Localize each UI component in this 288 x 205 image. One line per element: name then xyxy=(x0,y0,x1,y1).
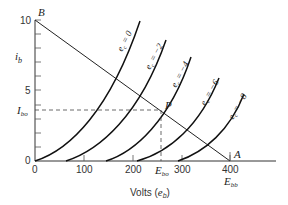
ibo-label: Ibo xyxy=(16,104,28,118)
point-b-label: B xyxy=(38,6,45,18)
x-axis-ticks xyxy=(84,155,230,161)
y-tick-5: 5 xyxy=(25,85,31,96)
y-axis-title: ib xyxy=(15,50,22,65)
curve-label-ec-minus-8: ec = −8 xyxy=(226,91,250,121)
plate-characteristics-chart: 10 5 0 0 100 200 300 400 ib Volts (eb) B… xyxy=(0,0,288,205)
x-tick-400: 400 xyxy=(222,164,239,175)
x-tick-200: 200 xyxy=(125,164,142,175)
curve-label-ec-minus-4: ec = −4 xyxy=(169,59,192,89)
point-p-label: P xyxy=(164,99,172,111)
y-axis-ticks xyxy=(35,20,41,147)
x-tick-0: 0 xyxy=(32,164,38,175)
curve-label-ec-minus-2: ec = −2 xyxy=(143,41,166,71)
x-axis-title: Volts (eb) xyxy=(130,186,170,199)
y-tick-10: 10 xyxy=(20,15,32,26)
ebo-label: Ebo xyxy=(154,164,169,178)
curve-label-ec-minus-6: ec = −6 xyxy=(198,77,222,107)
y-tick-0: 0 xyxy=(25,155,31,166)
x-tick-100: 100 xyxy=(76,164,93,175)
point-a-label: A xyxy=(233,148,241,160)
x-tick-300: 300 xyxy=(174,164,191,175)
ebb-label: Ebb xyxy=(223,175,238,189)
